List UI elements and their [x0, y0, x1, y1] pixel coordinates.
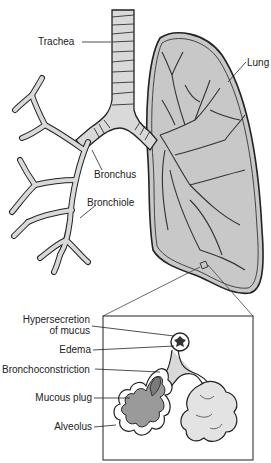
diagram-canvas: Trachea Lung Bronchus Bronchiole Hyperse…	[0, 0, 271, 463]
trachea-shape	[76, 10, 157, 150]
bronchial-tree	[12, 78, 88, 272]
label-lung: Lung	[247, 57, 269, 68]
label-bronchoconstriction: Bronchoconstriction	[2, 364, 90, 375]
label-bronchus: Bronchus	[94, 169, 136, 180]
label-hypersecretion: Hypersecretion of mucus	[10, 314, 90, 336]
label-alveolus: Alveolus	[10, 421, 92, 432]
label-edema: Edema	[10, 344, 91, 355]
label-hypersecretion-line2: of mucus	[10, 325, 90, 336]
label-mucous-plug: Mucous plug	[10, 392, 92, 403]
lung-shape	[147, 33, 263, 294]
label-bronchiole: Bronchiole	[87, 197, 134, 208]
label-hypersecretion-line1: Hypersecretion	[10, 314, 90, 325]
label-trachea: Trachea	[38, 36, 74, 47]
